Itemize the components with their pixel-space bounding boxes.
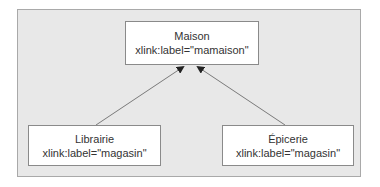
node-maison-title: Maison (174, 29, 209, 43)
node-epicerie: Épicerie xlink:label="magasin" (222, 125, 354, 166)
node-librairie: Librairie xlink:label="magasin" (28, 125, 161, 166)
node-epicerie-title: Épicerie (268, 132, 308, 146)
node-epicerie-label: xlink:label="magasin" (236, 146, 340, 160)
node-librairie-title: Librairie (75, 132, 114, 146)
node-maison: Maison xlink:label="mamaison" (125, 21, 259, 65)
node-librairie-label: xlink:label="magasin" (42, 146, 146, 160)
node-maison-label: xlink:label="mamaison" (135, 43, 248, 57)
